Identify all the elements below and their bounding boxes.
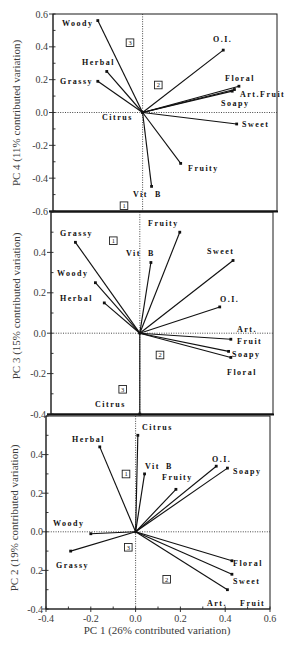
vector-point-grassy — [74, 241, 77, 244]
plot-frame — [51, 212, 273, 414]
y-tick-label: 0.2 — [31, 565, 44, 576]
vector-label-o-i: O.I. — [212, 455, 231, 464]
vector-point-woody — [94, 281, 97, 284]
y-tick-label: 0.4 — [31, 449, 44, 460]
vector-point-citrus — [138, 413, 141, 416]
quadrant-label-box: 1 — [122, 470, 130, 478]
y-tick-label: -0.2 — [30, 368, 46, 379]
vector-label-grassy: Grassy — [60, 229, 93, 238]
vector-label-floral: Floral — [225, 74, 255, 83]
x-tick-label: 0.6 — [264, 613, 277, 624]
y-tick-label: 0.4 — [34, 247, 47, 258]
quadrant-label-box: 1 — [120, 202, 128, 210]
vector-label-herbal: Herbal — [82, 58, 115, 67]
vector-line-art-fruit — [136, 532, 228, 590]
vector-point-vit-b — [143, 473, 146, 476]
y-tick-label: -0.4 — [32, 173, 48, 184]
vector-point-art-fruit — [229, 338, 232, 341]
x-tick-label: 0.2 — [174, 613, 187, 624]
y-tick-label: 0.2 — [36, 74, 49, 85]
vector-label-sweet: Sweet — [233, 577, 261, 586]
y-tick-label: 0.0 — [34, 328, 47, 339]
y-tick-label: -0.6 — [32, 206, 48, 217]
vector-label-sweet: Sweet — [207, 247, 235, 256]
vector-label-herbal: Herbal — [72, 435, 105, 444]
vector-label-art-fruit: Fruit — [237, 337, 262, 346]
vector-label-art-fruit: Art.Fruit — [240, 90, 285, 99]
vector-label-vit-b: Vit — [126, 249, 141, 258]
vector-line-o-i — [140, 307, 220, 333]
vector-label-art-fruit: Art. — [207, 599, 227, 608]
vector-label-soapy: Soapy — [232, 350, 260, 359]
x-tick-label: -0.4 — [38, 613, 54, 624]
vector-line-woody — [98, 21, 143, 113]
origin-marker — [138, 332, 141, 335]
vector-label-woody: Woody — [62, 19, 94, 28]
vector-line-sweet — [143, 113, 237, 124]
vector-label-vit-b: Vit — [133, 190, 148, 199]
vector-label-vit-b: B — [148, 249, 155, 258]
vector-point-herbal — [98, 445, 101, 448]
vector-point-woody — [96, 19, 99, 22]
quadrant-label-box: 2 — [155, 81, 163, 89]
vector-label-grassy: Grassy — [56, 561, 89, 570]
pca-biplot-figure: 0.60.40.20.0-0.2-0.4-0.6PC 4 (11% contri… — [0, 0, 299, 655]
vector-label-herbal: Herbal — [60, 294, 93, 303]
vector-label-art-fruit: Art. — [237, 325, 257, 334]
vector-point-fruity — [175, 488, 178, 491]
vector-point-vit-b — [150, 261, 153, 264]
y-tick-label: 0.2 — [31, 488, 44, 499]
quadrant-number: 2 — [157, 81, 160, 88]
vector-point-grassy — [96, 80, 99, 83]
vector-label-o-i: O.I. — [220, 295, 239, 304]
vector-label-floral: Floral — [227, 368, 257, 377]
vector-point-floral — [229, 356, 232, 359]
vector-point-sweet — [235, 123, 238, 126]
vector-point-sweet — [232, 259, 235, 262]
quadrant-label-box: 3 — [126, 39, 134, 47]
vector-label-o-i: O.I. — [213, 35, 232, 44]
y-axis-title: PC 4 (11% contributed variation) — [10, 40, 23, 187]
vector-line-herbal — [100, 447, 136, 532]
vector-point-floral — [238, 85, 241, 88]
vector-point-woody — [89, 532, 92, 535]
vector-point-o-i — [218, 306, 221, 309]
vector-line-sweet — [136, 532, 232, 574]
y-axis-title: PC 2 (19% contributed variation) — [8, 444, 21, 591]
vector-label-woody: Woody — [57, 269, 89, 278]
vector-point-vit-b — [150, 185, 153, 188]
quadrant-label-box: 2 — [156, 351, 164, 359]
vector-label-soapy: Soapy — [221, 99, 249, 108]
x-tick-label: -0.2 — [83, 613, 99, 624]
panel-pc1-pc2: 0.40.20.00.2-0.4-0.4-0.20.00.20.40.6PC 2… — [8, 416, 276, 637]
y-tick-label: -0.4 — [30, 409, 46, 420]
y-tick-label: -0.2 — [32, 140, 48, 151]
vector-point-herbal — [103, 302, 106, 305]
vector-point-fruity — [179, 162, 182, 165]
x-axis-title: PC 1 (26% contributed variation) — [84, 624, 231, 637]
vector-label-citrus: Citrus — [142, 423, 173, 432]
vector-label-grassy: Grassy — [60, 77, 93, 86]
vector-label-vit-b: B — [155, 190, 162, 199]
y-tick-label: 0.6 — [36, 9, 49, 20]
vector-label-floral: Floral — [233, 559, 263, 568]
quadrant-label-box: 1 — [110, 237, 118, 245]
origin-marker — [134, 530, 137, 533]
vector-point-art-fruit — [226, 588, 229, 591]
vector-label-citrus: Citrus — [95, 400, 126, 409]
y-tick-label: 0.2 — [34, 287, 47, 298]
vector-line-floral — [136, 532, 232, 561]
quadrant-number: 1 — [124, 470, 127, 477]
y-axis-title: PC 3 (15% contributed variation) — [10, 232, 23, 379]
vector-label-vit-b: Vit — [145, 462, 160, 471]
vector-label-fruity: Fruity — [162, 473, 193, 482]
quadrant-label-box: 3 — [125, 544, 133, 552]
quadrant-number: 3 — [121, 386, 124, 393]
vector-line-woody — [95, 283, 139, 334]
vector-label-vit-b: B — [166, 462, 173, 471]
x-tick-label: 0.4 — [219, 613, 232, 624]
vector-label-woody: Woody — [53, 519, 85, 528]
vector-label-soapy: Soapy — [233, 467, 261, 476]
quadrant-number: 3 — [128, 39, 131, 46]
x-tick-label: 0.0 — [129, 613, 142, 624]
